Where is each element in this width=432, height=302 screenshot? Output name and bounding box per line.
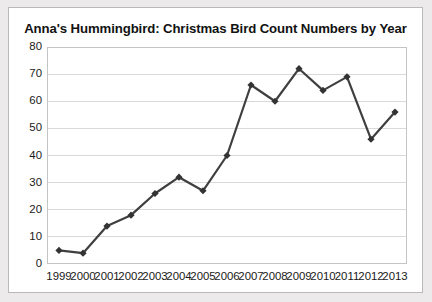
y-tick-label: 40 (29, 150, 42, 161)
y-tick-label: 80 (29, 41, 42, 52)
x-tick-label: 2000 (70, 270, 95, 282)
x-tick-label: 2005 (190, 270, 215, 282)
x-tick-label: 2013 (382, 270, 407, 282)
y-tick-label: 70 (29, 68, 42, 79)
y-axis-tick-labels: 01020304050607080 (9, 47, 42, 264)
x-axis-tick-labels: 1999200020012002200320042005200620072008… (47, 270, 407, 288)
x-tick-label: 2006 (214, 270, 239, 282)
x-tick-label: 2007 (238, 270, 263, 282)
x-tick-label: 2012 (358, 270, 383, 282)
y-tick-label: 10 (29, 231, 42, 242)
y-tick-label: 60 (29, 95, 42, 106)
x-tick-label: 2002 (118, 270, 143, 282)
x-tick-label: 2003 (142, 270, 167, 282)
chart-title: Anna's Hummingbird: Christmas Bird Count… (9, 21, 422, 36)
x-tick-label: 2009 (286, 270, 311, 282)
y-tick-label: 50 (29, 122, 42, 133)
chart-card: Anna's Hummingbird: Christmas Bird Count… (8, 7, 423, 293)
y-tick-label: 20 (29, 204, 42, 215)
x-tick-label: 2011 (335, 270, 360, 282)
plot-area (47, 47, 407, 264)
x-tick-label: 2004 (166, 270, 191, 282)
y-tick-label: 30 (29, 177, 42, 188)
x-tick-label: 2008 (262, 270, 287, 282)
x-tick-label: 2001 (94, 270, 119, 282)
x-tick-label: 2010 (310, 270, 335, 282)
y-tick-label: 0 (36, 258, 42, 269)
x-tick-label: 1999 (46, 270, 71, 282)
line-chart-svg (47, 47, 407, 264)
